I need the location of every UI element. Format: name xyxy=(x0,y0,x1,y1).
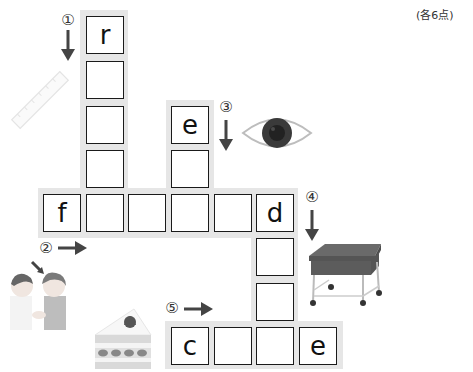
arrow-down-icon-3 xyxy=(219,120,233,152)
cell-5-3[interactable] xyxy=(256,327,294,365)
desk-icon xyxy=(305,240,385,308)
clue-number-5: ⑤ xyxy=(164,300,180,316)
cell-2-4[interactable] xyxy=(171,194,209,232)
cake-icon xyxy=(92,305,154,370)
cell-1-2[interactable] xyxy=(86,61,124,99)
eye-icon xyxy=(240,110,314,156)
cell-1-3[interactable] xyxy=(86,106,124,144)
clue-number-3: ③ xyxy=(218,99,234,115)
cell-5-2[interactable] xyxy=(214,327,252,365)
cell-1-4[interactable] xyxy=(86,150,124,188)
arrow-right-icon-2 xyxy=(58,241,88,255)
arrow-right-icon-5 xyxy=(184,302,214,316)
cell-3-1[interactable]: e xyxy=(171,106,209,144)
clue-number-2: ② xyxy=(38,240,54,256)
cell-3-2[interactable] xyxy=(171,150,209,188)
ruler-icon xyxy=(4,64,76,136)
cell-2-6[interactable]: d xyxy=(256,194,294,232)
friends-icon xyxy=(4,260,74,332)
cell-2-1[interactable]: f xyxy=(43,194,81,232)
cell-4-3[interactable] xyxy=(256,283,294,321)
clue-number-4: ④ xyxy=(304,189,320,205)
cell-2-2[interactable] xyxy=(86,194,124,232)
clue-number-1: ① xyxy=(60,12,76,28)
cell-2-3[interactable] xyxy=(128,194,166,232)
arrow-down-icon-4 xyxy=(305,210,319,242)
cell-5-1[interactable]: c xyxy=(171,327,209,365)
points-label: (各6点) xyxy=(416,6,454,22)
cell-1-1[interactable]: r xyxy=(86,16,124,54)
cell-2-5[interactable] xyxy=(214,194,252,232)
cell-5-4[interactable]: e xyxy=(299,327,337,365)
arrow-down-icon-1 xyxy=(61,30,75,62)
cell-4-2[interactable] xyxy=(256,238,294,276)
